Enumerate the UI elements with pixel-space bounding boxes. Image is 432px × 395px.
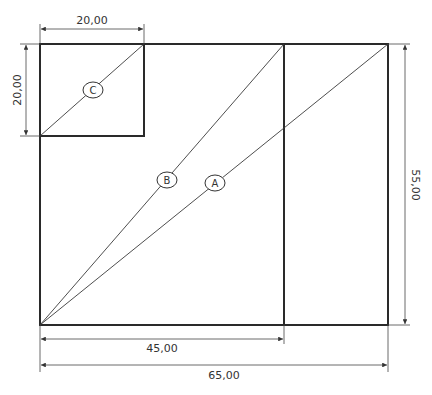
dim-label-left: 20,00 [11, 74, 24, 106]
dim-label-45: 45,00 [146, 342, 178, 355]
label-c: C [90, 85, 97, 96]
label-b: B [164, 175, 171, 186]
technical-drawing: 20,00 20,00 55,00 45,00 65,00 C B A [0, 0, 432, 395]
dim-label-65: 65,00 [208, 369, 240, 382]
dim-label-right: 55,00 [409, 169, 422, 201]
dim-label-top: 20,00 [76, 14, 108, 27]
label-a: A [212, 178, 219, 189]
